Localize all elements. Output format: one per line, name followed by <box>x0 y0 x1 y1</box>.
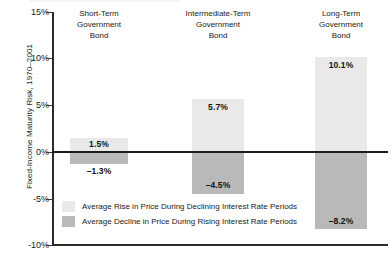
legend-label-rise: Average Rise in Price During Declining I… <box>82 202 297 211</box>
bar-value-positive-short-term: 1.5% <box>70 139 128 149</box>
legend-swatch-rise-icon <box>62 201 75 212</box>
bar-group-long-term: 10.1% –8.2% <box>315 0 367 255</box>
bar-negative-short-term <box>70 152 128 164</box>
zero-baseline <box>52 151 388 153</box>
legend-item-decline: Average Decline in Price During Rising I… <box>62 214 297 229</box>
legend: Average Rise in Price During Declining I… <box>62 199 297 229</box>
bar-positive-long-term <box>315 57 367 152</box>
legend-label-decline: Average Decline in Price During Rising I… <box>82 217 297 226</box>
bar-value-negative-long-term: –8.2% <box>315 216 367 226</box>
bar-value-positive-long-term: 10.1% <box>315 60 367 70</box>
bar-value-negative-intermediate-term: –4.5% <box>192 180 244 190</box>
bar-value-positive-intermediate-term: 5.7% <box>192 102 244 112</box>
legend-item-rise: Average Rise in Price During Declining I… <box>62 199 297 214</box>
legend-swatch-decline-icon <box>62 216 75 227</box>
plot-area: Short-Term Government Bond Intermediate-… <box>0 0 392 255</box>
bond-maturity-risk-chart: Fixed-Income Maturity Risk, 1970–2001 15… <box>0 0 392 255</box>
bar-value-negative-short-term: –1.3% <box>70 166 128 176</box>
